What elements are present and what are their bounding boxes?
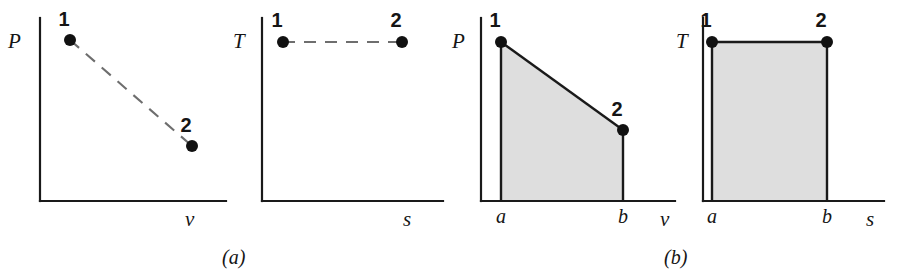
subfigure-caption-b: (b) (664, 246, 687, 269)
panel-4-state-dot-2 (821, 36, 833, 48)
panel-1-state-label-2: 2 (180, 114, 191, 136)
panel-1-process-line (70, 40, 192, 146)
panel-4-state-label-1: 1 (700, 9, 711, 31)
panel-4-tick-label-b: b (822, 205, 832, 227)
panel-4-state-label-2: 2 (815, 9, 826, 31)
panel-3: 12Pvab (451, 9, 675, 231)
process-diagrams-svg: 12Pv12Ts12Pvab12Tsab (0, 0, 906, 274)
panel-3-state-label-2: 2 (611, 98, 622, 120)
panel-4-state-dot-1 (706, 36, 718, 48)
panel-4-shaded-area (712, 42, 827, 201)
panel-3-tick-label-a: a (496, 205, 506, 227)
panel-3-y-axis-label: P (451, 29, 465, 53)
panel-2: 12Ts (233, 9, 443, 231)
panel-4: 12Tsab (676, 9, 884, 231)
panel-4-y-axis-label: T (676, 29, 689, 53)
panel-3-tick-label-b: b (618, 205, 628, 227)
panel-4-x-axis-label: s (866, 207, 874, 231)
panel-3-state-label-1: 1 (489, 9, 500, 31)
panel-4-tick-label-a: a (707, 205, 717, 227)
panel-2-state-dot-1 (277, 36, 289, 48)
panel-1-y-axis-label: P (7, 29, 21, 53)
panels-group: 12Pv12Ts12Pvab12Tsab (7, 8, 884, 231)
panel-1-state-dot-2 (186, 140, 198, 152)
thermodynamic-process-figure: 12Pv12Ts12Pvab12Tsab (a) (b) (0, 0, 906, 274)
panel-1-state-dot-1 (64, 34, 76, 46)
panel-1-state-label-1: 1 (58, 8, 69, 30)
panel-2-state-dot-2 (396, 36, 408, 48)
panel-2-x-axis-label: s (403, 207, 411, 231)
panel-3-state-dot-2 (617, 124, 629, 136)
panel-1-x-axis-label: v (185, 207, 195, 231)
subfigure-caption-a: (a) (222, 246, 245, 269)
panel-2-state-label-2: 2 (390, 9, 401, 31)
panel-2-y-axis-label: T (233, 29, 246, 53)
panel-2-state-label-1: 1 (271, 9, 282, 31)
panel-3-x-axis-label: v (660, 207, 670, 231)
panel-1: 12Pv (7, 8, 226, 231)
panel-3-state-dot-1 (495, 36, 507, 48)
panel-3-shaded-area (501, 42, 623, 201)
